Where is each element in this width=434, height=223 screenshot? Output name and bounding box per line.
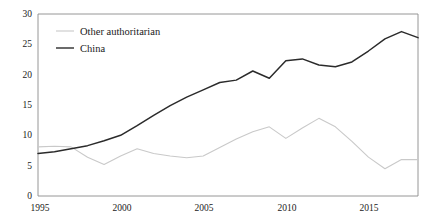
legend: Other authoritarian China (56, 26, 161, 54)
ytick-label-0: 0 (27, 191, 32, 201)
xtick-label-2010: 2010 (278, 203, 297, 213)
xtick-label-2000: 2000 (113, 203, 132, 213)
ytick-label-10: 10 (23, 130, 33, 140)
ytick-label-15: 15 (23, 100, 33, 110)
line-chart: 0 5 10 15 20 25 30 1995 2000 2005 2010 2… (0, 0, 434, 223)
xtick-label-2005: 2005 (195, 203, 214, 213)
ytick-label-5: 5 (27, 161, 32, 171)
ytick-label-30: 30 (23, 9, 33, 19)
xtick-label-2015: 2015 (360, 203, 379, 213)
chart-svg: 0 5 10 15 20 25 30 1995 2000 2005 2010 2… (0, 0, 434, 223)
xtick-label-1995: 1995 (31, 203, 50, 213)
ytick-label-20: 20 (23, 70, 33, 80)
legend-label-china: China (80, 43, 105, 54)
ytick-label-25: 25 (23, 39, 33, 49)
legend-label-other-authoritarian: Other authoritarian (80, 26, 161, 37)
